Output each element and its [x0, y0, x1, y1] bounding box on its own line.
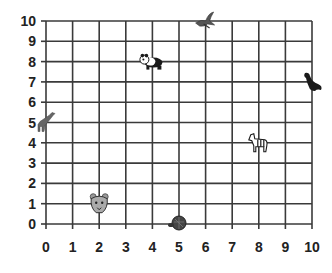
x-axis-label: 2 — [95, 239, 103, 255]
y-axis-label: 0 — [28, 216, 36, 232]
turtle-icon — [168, 216, 186, 230]
y-axis-label: 9 — [28, 33, 36, 49]
grid-lines — [46, 21, 312, 224]
y-axis-label: 2 — [28, 175, 36, 191]
y-axis-label: 1 — [28, 196, 36, 212]
y-axis-label: 3 — [28, 155, 36, 171]
panda-icon — [140, 54, 163, 70]
y-axis-label: 6 — [28, 94, 36, 110]
x-axis-label: 7 — [228, 239, 236, 255]
y-axis-label: 5 — [28, 115, 36, 131]
x-axis-label: 9 — [282, 239, 290, 255]
x-axis-label: 4 — [149, 239, 157, 255]
x-axis-label: 5 — [175, 239, 183, 255]
x-axis-labels: 012345678910 — [42, 239, 320, 255]
x-axis-label: 3 — [122, 239, 130, 255]
coordinate-grid: 012345678910 012345678910 — [0, 0, 332, 273]
x-axis-label: 6 — [202, 239, 210, 255]
bird-icon — [196, 12, 215, 28]
y-axis-label: 7 — [28, 74, 36, 90]
x-axis-label: 8 — [255, 239, 263, 255]
y-axis-label: 8 — [28, 54, 36, 70]
y-axis-labels: 012345678910 — [20, 13, 36, 232]
x-axis-label: 0 — [42, 239, 50, 255]
y-axis-label: 10 — [20, 13, 36, 29]
axis-ticks — [41, 21, 312, 229]
x-axis-label: 10 — [304, 239, 320, 255]
tiger-icon — [90, 194, 108, 213]
x-axis-label: 1 — [69, 239, 77, 255]
y-axis-label: 4 — [28, 135, 36, 151]
